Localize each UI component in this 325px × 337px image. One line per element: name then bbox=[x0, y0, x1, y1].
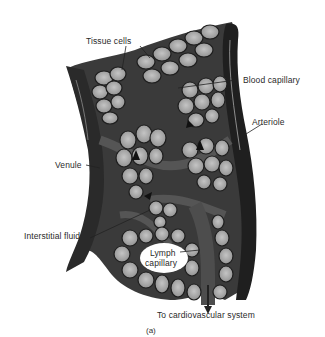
figure-caption: (a) bbox=[146, 326, 156, 335]
label-blood-capillary: Blood capillary bbox=[243, 75, 300, 85]
label-lymph: Lymph bbox=[150, 248, 176, 258]
label-tissue-cells: Tissue cells bbox=[86, 36, 131, 46]
label-venule: Venule bbox=[55, 160, 82, 170]
label-capillary: capillary bbox=[145, 258, 177, 268]
label-to-cardiovascular: To cardiovascular system bbox=[157, 310, 255, 320]
label-arteriole: Arteriole bbox=[252, 117, 285, 127]
label-interstitial-fluid: Interstitial fluid bbox=[24, 231, 80, 241]
